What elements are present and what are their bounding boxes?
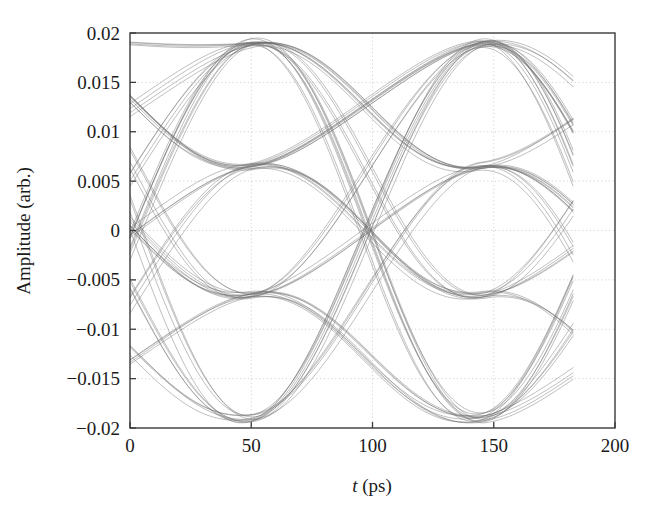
svg-text:−0.015: −0.015	[67, 368, 120, 389]
svg-text:0: 0	[125, 435, 135, 456]
svg-text:0.02: 0.02	[87, 23, 120, 44]
eye-diagram-chart: 0.020.0150.010.0050−0.005−0.01−0.015−0.0…	[0, 0, 662, 516]
x-axis-title: t (ps)	[352, 475, 392, 497]
svg-text:150: 150	[480, 435, 509, 456]
svg-text:−0.005: −0.005	[67, 269, 120, 290]
svg-text:0.015: 0.015	[77, 72, 120, 93]
svg-text:100: 100	[358, 435, 387, 456]
svg-text:−0.01: −0.01	[76, 319, 120, 340]
svg-text:0: 0	[111, 220, 121, 241]
figure-container: 0.020.0150.010.0050−0.005−0.01−0.015−0.0…	[0, 0, 662, 516]
svg-text:Amplitude (arb.): Amplitude (arb.)	[13, 167, 35, 295]
y-axis-title: Amplitude (arb.)	[13, 167, 35, 295]
svg-text:t (ps): t (ps)	[352, 475, 392, 497]
svg-text:200: 200	[601, 435, 630, 456]
svg-text:50: 50	[242, 435, 261, 456]
svg-text:0.01: 0.01	[87, 121, 120, 142]
svg-text:0.005: 0.005	[77, 171, 120, 192]
svg-text:−0.02: −0.02	[76, 418, 120, 439]
